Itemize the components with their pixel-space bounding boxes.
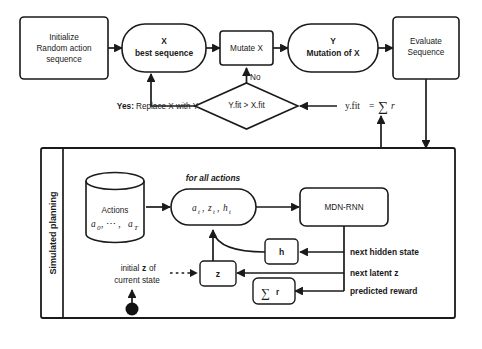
node-latent-state[interactable]: z xyxy=(200,261,236,286)
actions-dots: , ⋯ , xyxy=(101,219,121,229)
node-best-sequence[interactable]: X best sequence xyxy=(122,24,206,72)
node-state-tuple-shape xyxy=(171,189,256,225)
node-initialize-line1: Initialize xyxy=(49,33,79,42)
node-mutation-of-x-line2: Mutation of X xyxy=(306,48,359,58)
tuple-a: a xyxy=(192,203,197,213)
note-initial-latent-line1-a: initial xyxy=(121,264,140,273)
node-mutate-x-label: Mutate X xyxy=(230,44,263,53)
node-decision-fitness[interactable]: Y.fit > X.fit xyxy=(195,83,298,129)
tuple-h: h xyxy=(223,203,228,213)
edge-label-yes-text: Replace X with Y xyxy=(136,102,199,111)
node-latent-state-label: z xyxy=(216,269,220,279)
actions-aT-symbol: a xyxy=(128,219,133,229)
tuple-sep1: , xyxy=(202,203,204,213)
node-reward-sum-shape xyxy=(253,278,295,304)
node-mutation-of-x[interactable]: Y Mutation of X xyxy=(288,24,378,72)
node-hidden-state[interactable]: h xyxy=(265,239,298,264)
tuple-z: z xyxy=(207,203,212,213)
start-state-dot xyxy=(126,303,139,316)
diagram-canvas: Initialize Random action sequence X best… xyxy=(0,0,482,349)
node-evaluate-sequence-line1: Evaluate xyxy=(410,37,442,46)
tuple-z-sub: t xyxy=(213,208,215,215)
flowchart-svg: Initialize Random action sequence X best… xyxy=(0,0,482,349)
node-decision-label: Y.fit > X.fit xyxy=(228,101,265,110)
node-initialize-line2: Random action xyxy=(36,44,92,53)
node-best-sequence-line1: X xyxy=(161,36,167,46)
tuple-a-sub: t xyxy=(198,208,200,215)
fitness-lhs: y.fit xyxy=(345,101,360,111)
node-mdn-rnn-label: MDN-RNN xyxy=(324,203,363,212)
node-initialize-line3: sequence xyxy=(46,55,82,64)
note-initial-latent-line2: current state xyxy=(114,276,160,285)
planning-panel-side-label: Simulated planning xyxy=(48,191,58,274)
node-evaluate-sequence[interactable]: Evaluate Sequence xyxy=(393,17,459,79)
node-best-sequence-line2: best sequence xyxy=(135,48,194,58)
node-actions-store-top xyxy=(86,173,144,190)
fitness-rhs: r xyxy=(391,101,395,111)
node-mutate-x[interactable]: Mutate X xyxy=(220,31,273,65)
node-mutation-of-x-line1: Y xyxy=(330,36,336,46)
node-reward-sum[interactable]: ∑ r xyxy=(253,278,295,304)
edge-label-no: No xyxy=(250,73,261,82)
node-initialize[interactable]: Initialize Random action sequence xyxy=(20,17,108,79)
node-reward-sum-sigma: ∑ xyxy=(261,286,270,300)
fitness-expression: y.fit = ∑ r xyxy=(345,99,395,114)
edge-label-next-hidden-state: next hidden state xyxy=(350,247,419,257)
label-for-all-actions: for all actions xyxy=(186,173,241,183)
node-state-tuple[interactable]: a t , z t , h t xyxy=(171,189,256,225)
actions-a0-symbol: a xyxy=(91,219,96,229)
node-evaluate-sequence-line2: Sequence xyxy=(408,48,445,57)
tuple-h-sub: t xyxy=(229,208,231,215)
fitness-equals: = xyxy=(369,101,374,111)
fitness-sigma: ∑ xyxy=(378,99,388,114)
edge-label-predicted-reward: predicted reward xyxy=(350,286,418,296)
edge-label-yes-prefix: Yes: xyxy=(117,101,134,111)
node-hidden-state-label: h xyxy=(279,247,284,257)
note-initial-latent-line1-c: of xyxy=(149,264,157,273)
node-mdn-rnn[interactable]: MDN-RNN xyxy=(300,188,388,226)
note-initial-latent-line1-b: z xyxy=(142,263,146,273)
node-actions-store[interactable]: Actions a 0 , ⋯ , a T xyxy=(86,173,144,243)
tuple-sep2: , xyxy=(217,203,219,213)
node-actions-store-line1: Actions xyxy=(102,206,129,215)
edge-label-next-latent-z: next latent z xyxy=(350,268,398,278)
